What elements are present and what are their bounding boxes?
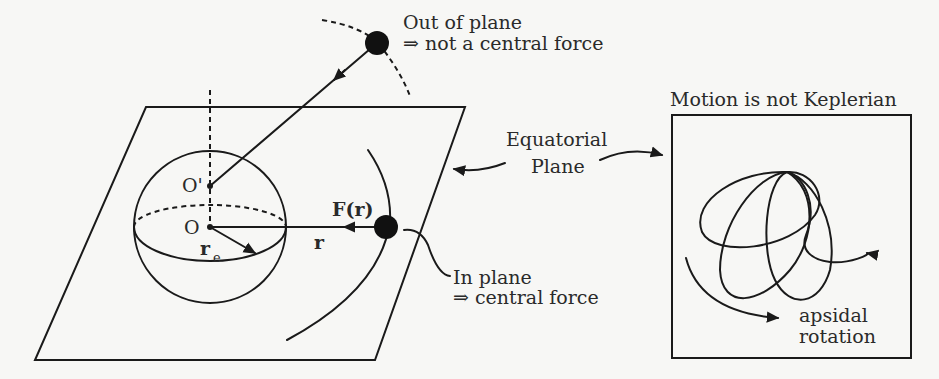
out-of-plane-body (365, 31, 389, 55)
plane-label: Plane (531, 155, 585, 177)
inset-title: Motion is not Keplerian (670, 88, 897, 110)
central-force-label: ⇒ central force (453, 286, 599, 308)
in-plane-body (374, 215, 398, 239)
out-of-plane-force-arrow (334, 70, 345, 80)
equatorial-arrow-right (600, 151, 662, 160)
equatorial-label: Equatorial (506, 128, 607, 150)
out-of-plane-label: Out of plane (403, 11, 522, 33)
diagram-canvas: Out of plane ⇒ not a central force Equat… (0, 0, 939, 379)
in-plane-label: In plane (453, 266, 532, 288)
origin-prime-label: O' (182, 174, 203, 196)
equatorial-arrow-left (454, 163, 505, 170)
precessing-orbit (700, 172, 868, 300)
apsidal-label: apsidal (799, 304, 868, 326)
diagram-svg: Out of plane ⇒ not a central force Equat… (0, 0, 939, 379)
apsidal-rotation-arrow (686, 258, 778, 318)
out-of-plane-force-line (210, 43, 377, 186)
equatorial-plane (35, 107, 465, 360)
not-central-force-label: ⇒ not a central force (403, 32, 603, 54)
inset-box (672, 115, 911, 358)
equatorial-radius-subscript: e (213, 250, 221, 265)
origin-label: O (184, 216, 200, 238)
in-plane-connector (404, 230, 450, 276)
force-label: F(r) (332, 198, 373, 220)
equatorial-radius-label: r (200, 237, 211, 259)
rotation-label: rotation (799, 325, 876, 347)
in-plane-orbit-arc (287, 150, 390, 340)
radius-vector-label: r (314, 231, 325, 253)
out-of-plane-orbit-arc (322, 20, 410, 96)
